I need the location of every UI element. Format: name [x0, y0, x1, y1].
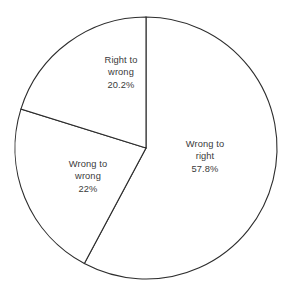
pie-chart: Wrong toright57.8%Wrong towrong22%Right … — [0, 0, 288, 296]
pie-chart-canvas — [0, 0, 288, 296]
